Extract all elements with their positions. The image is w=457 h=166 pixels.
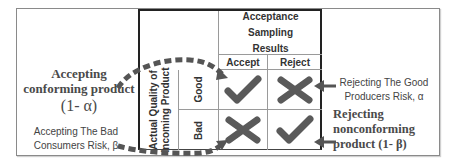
check-icon <box>276 115 314 145</box>
table-header: Acceptance Sampling Results <box>218 11 322 55</box>
row-group-label-line-1: Actual Quality of <box>147 68 159 153</box>
column-header-accept: Accept <box>218 55 268 70</box>
rejecting-nonconforming-line-1: Rejecting <box>333 107 443 122</box>
row-group-label-line-2: Incoming Product <box>159 68 171 153</box>
cross-icon <box>223 115 263 145</box>
column-header-reject: Reject <box>268 55 322 70</box>
rejecting-nonconforming-line-3: product (1- β) <box>333 137 443 152</box>
cross-icon <box>275 75 315 105</box>
accepting-conforming-line-2: conforming product <box>20 81 138 96</box>
accepting-conforming-label: Accepting conforming product (1- α) <box>20 66 138 115</box>
cell-good-reject <box>268 70 322 110</box>
cell-bad-reject <box>268 110 322 150</box>
producers-risk-line-2: Producers Risk, α <box>324 90 444 104</box>
row-label-good: Good <box>179 70 218 110</box>
accepting-conforming-line-1: Accepting <box>20 66 138 81</box>
accepting-conforming-formula: (1- α) <box>20 96 138 115</box>
consumers-risk-line-2: Consumers Risk, β <box>26 139 126 153</box>
header-line-1: Acceptance Sampling <box>219 9 322 41</box>
producers-risk-label: Rejecting The Good Producers Risk, α <box>324 76 444 104</box>
consumers-risk-line-1: Accepting The Bad <box>26 125 126 139</box>
consumers-risk-label: Accepting The Bad Consumers Risk, β <box>26 125 126 153</box>
rejecting-nonconforming-line-2: nonconforming <box>333 122 443 137</box>
cell-bad-accept <box>218 110 268 150</box>
acceptance-sampling-table: Acceptance Sampling Results Accept Rejec… <box>138 9 322 150</box>
row-label-good-text: Good <box>193 76 204 102</box>
row-label-bad-text: Bad <box>193 121 204 140</box>
rejecting-nonconforming-label: Rejecting nonconforming product (1- β) <box>333 107 443 152</box>
row-group-label: Actual Quality of Incoming Product <box>140 70 179 150</box>
check-icon <box>224 75 262 105</box>
row-label-bad: Bad <box>179 110 218 150</box>
producers-risk-line-1: Rejecting The Good <box>324 76 444 90</box>
cell-good-accept <box>218 70 268 110</box>
